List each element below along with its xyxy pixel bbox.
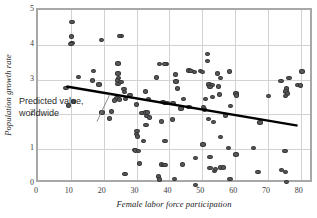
predicted-value-annotation: Predicted value, worldwide [19, 96, 84, 119]
data-point [193, 183, 198, 187]
x-tick-label: 10 [59, 186, 79, 195]
annotation-leader-line [38, 10, 310, 180]
leader-line-path [97, 94, 110, 121]
x-tick-label: 60 [223, 186, 243, 195]
x-tick-label: 70 [256, 186, 276, 195]
x-tick-label: 20 [92, 186, 112, 195]
x-tick-label: 40 [157, 186, 177, 195]
plot-area [36, 8, 312, 182]
population-growth-scatter-chart: Population growth rate 012345 0102030405… [0, 0, 317, 218]
x-tick-label: 80 [289, 186, 309, 195]
plot-inner [38, 10, 310, 180]
x-tick-label: 0 [26, 186, 46, 195]
x-axis-title: Female labor force participation [36, 199, 312, 209]
x-tick-label: 50 [190, 186, 210, 195]
x-tick-label: 30 [125, 186, 145, 195]
